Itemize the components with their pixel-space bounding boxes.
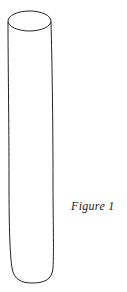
- cylinder-body-outline: [8, 22, 53, 283]
- cylinder-top-ellipse: [8, 11, 51, 31]
- figure-caption: Figure 1: [71, 199, 115, 214]
- cylinder-drawing: [0, 0, 127, 292]
